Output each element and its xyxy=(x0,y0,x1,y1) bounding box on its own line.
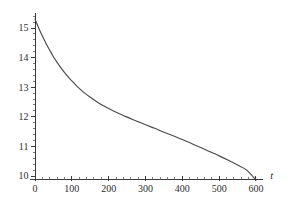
x-tick-label: 500 xyxy=(212,183,227,194)
plot-canvas: 101112131415 0100200300400500600 t xyxy=(0,0,290,216)
x-axis-label: t xyxy=(270,170,274,181)
y-tick-label: 14 xyxy=(19,52,29,63)
y-tick-label: 11 xyxy=(19,141,29,152)
x-axis-group: 0100200300400500600 xyxy=(30,176,264,194)
x-axis-tick-labels: 0100200300400500600 xyxy=(33,183,264,194)
y-tick-label: 12 xyxy=(19,111,29,122)
data-series-group xyxy=(35,19,256,180)
y-tick-label: 15 xyxy=(19,22,29,33)
x-tick-label: 400 xyxy=(175,183,190,194)
chart-figure: 101112131415 0100200300400500600 t xyxy=(0,0,290,216)
x-tick-label: 600 xyxy=(248,183,263,194)
x-tick-label: 300 xyxy=(138,183,153,194)
series-line-curve xyxy=(35,19,256,180)
y-tick-label: 10 xyxy=(19,170,29,181)
y-axis-group: 101112131415 xyxy=(19,13,37,181)
x-tick-label: 100 xyxy=(64,183,79,194)
y-axis-tick-labels: 101112131415 xyxy=(19,22,29,181)
x-tick-label: 200 xyxy=(101,183,116,194)
y-tick-label: 13 xyxy=(19,82,29,93)
x-tick-label: 0 xyxy=(33,183,38,194)
